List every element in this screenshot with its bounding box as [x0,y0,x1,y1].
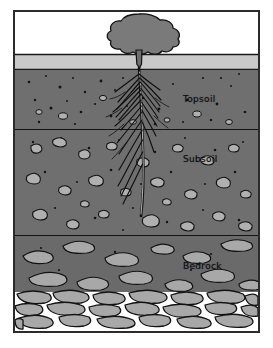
soil-cross-section-canvas [15,12,258,331]
label-bedrock: Bedrock [183,261,222,271]
soil-profile-illustration: Topsoil Subsoil Bedrock [0,0,273,348]
label-topsoil: Topsoil [183,94,215,104]
diagram-frame: Topsoil Subsoil Bedrock [13,10,260,333]
solid-bedrock-layer [15,290,258,331]
subsoil-layer [15,130,258,236]
label-subsoil: Subsoil [183,154,217,164]
